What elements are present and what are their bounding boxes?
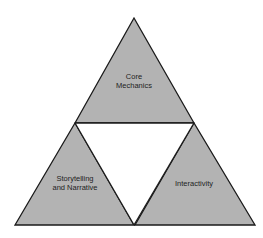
label-core-mechanics-line2: Mechanics: [116, 81, 152, 90]
label-storytelling-line2: and Narrative: [52, 183, 97, 192]
label-core-mechanics-line1: Core: [126, 72, 142, 81]
label-storytelling-line1: Storytelling: [56, 174, 93, 183]
label-interactivity: Interactivity: [175, 179, 213, 188]
triforce-diagram: Core Mechanics Storytelling and Narrativ…: [0, 0, 263, 238]
triangle-shape-top: [75, 18, 194, 123]
triangle-core-mechanics: Core Mechanics: [75, 18, 194, 123]
